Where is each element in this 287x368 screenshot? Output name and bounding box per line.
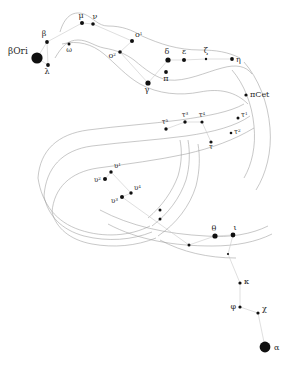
- star-label: δ: [165, 47, 170, 56]
- star-dot: [130, 39, 134, 43]
- star-dot: [238, 305, 241, 308]
- star-label: τ: [209, 143, 213, 151]
- star-unl-4[interactable]: [227, 253, 229, 255]
- star-label-superscript: 4: [203, 111, 206, 116]
- star-label-superscript: 4: [138, 184, 141, 189]
- star-dot: [205, 58, 207, 60]
- chart-background: [0, 0, 287, 368]
- star-dot: [109, 170, 112, 173]
- star-label-superscript: 1: [140, 31, 143, 36]
- star-epsilon[interactable]: ε: [182, 47, 186, 62]
- star-label: ι: [233, 223, 236, 232]
- star-label: λ: [44, 67, 49, 76]
- star-dot: [227, 253, 229, 255]
- star-label: γ: [145, 85, 150, 94]
- cetus-star-chart: βOriβλωμνo1o2γπδεζηπCetτ1τ2τ3τ4τ5τυ1υ2υ3…: [0, 0, 287, 368]
- star-label: ζ: [204, 46, 209, 55]
- star-unl-3[interactable]: [188, 244, 191, 247]
- star-dot: [164, 127, 167, 130]
- star-label: ν: [93, 12, 98, 21]
- star-label-superscript: 3: [186, 111, 189, 116]
- star-dot: [103, 177, 107, 181]
- star-dot: [182, 58, 186, 62]
- star-dot: [80, 21, 84, 25]
- star-label: βOri: [8, 46, 28, 56]
- star-dot: [159, 218, 162, 221]
- star-dot: [45, 40, 49, 44]
- star-label-superscript: 1: [118, 162, 121, 167]
- star-unl-1[interactable]: [159, 209, 162, 212]
- star-label: φ: [230, 302, 236, 311]
- star-dot: [91, 22, 95, 26]
- star-pi[interactable]: π: [163, 70, 168, 83]
- star-dot: [212, 233, 217, 238]
- star-label: θ: [212, 224, 217, 233]
- star-dot: [238, 281, 241, 284]
- star-label-superscript: 3: [115, 197, 118, 202]
- star-dot: [165, 57, 170, 62]
- star-label: π: [163, 74, 168, 83]
- star-dot: [230, 132, 233, 135]
- star-tau6[interactable]: τ: [209, 140, 213, 151]
- star-label-superscript: 2: [113, 52, 116, 57]
- star-dot: [200, 120, 203, 123]
- star-label: ω: [66, 46, 72, 54]
- star-dot: [231, 233, 236, 238]
- star-label: ε: [182, 47, 186, 56]
- star-label-superscript: 2: [238, 128, 241, 133]
- star-dot: [244, 93, 247, 96]
- star-label: μ: [78, 11, 83, 20]
- star-dot: [129, 191, 132, 194]
- star-label-superscript: 2: [98, 176, 101, 181]
- star-label: πCet: [250, 90, 270, 99]
- star-label-superscript: 5: [166, 118, 169, 123]
- star-label: χ: [262, 304, 267, 313]
- star-label: η: [236, 55, 241, 64]
- star-dot: [118, 50, 122, 54]
- star-dot: [260, 342, 271, 353]
- star-dot: [188, 244, 191, 247]
- star-dot: [31, 52, 42, 63]
- star-dot: [120, 195, 124, 199]
- star-dot: [230, 57, 234, 61]
- star-label: κ: [244, 277, 249, 286]
- star-dot: [237, 117, 240, 120]
- star-dot: [159, 209, 162, 212]
- star-label-superscript: 1: [245, 111, 248, 116]
- star-label: β: [42, 29, 47, 38]
- star-dot: [256, 311, 259, 314]
- star-unl-2[interactable]: [159, 218, 162, 221]
- star-label: α: [274, 343, 280, 352]
- star-dot: [183, 120, 186, 123]
